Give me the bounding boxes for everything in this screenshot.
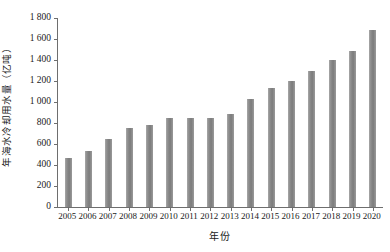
x-axis-tick-label: 2007 [99,212,117,221]
x-axis-tick-label: 2013 [221,212,239,221]
bar [166,118,173,207]
bars-layer [58,18,383,207]
bar [105,139,112,207]
y-axis-tick-mark [54,18,58,19]
y-axis-tick-label: 1 400 [30,55,51,65]
y-axis-tick-mark [54,60,58,61]
y-axis-tick-label: 1 800 [30,13,51,23]
y-axis-tick-mark [54,81,58,82]
x-axis-tick-label: 2012 [200,212,218,221]
bar [369,30,376,207]
y-axis-tick-label: 800 [37,118,51,128]
y-axis-title: 年海水冷却用水量（亿吨） [0,0,16,210]
y-axis-tick-mark [54,144,58,145]
y-axis-title-text: 年海水冷却用水量（亿吨） [3,43,13,167]
x-axis-tick-label: 2017 [302,212,320,221]
y-axis-tick-mark [54,165,58,166]
bar-chart: 年海水冷却用水量（亿吨） 02004006008001 0001 2001 40… [0,0,390,252]
x-axis-tick-label: 2005 [58,212,76,221]
bar [126,128,133,207]
y-axis-tick-mark [54,102,58,103]
bar [329,60,336,207]
y-axis-tick-mark [54,39,58,40]
x-axis-tick-label: 2009 [139,212,157,221]
bar [349,51,356,207]
x-axis-tick-label: 2018 [322,212,340,221]
x-axis-tick-labels: 2005200620072008200920102011201220132014… [57,212,382,226]
bar [187,118,194,207]
x-axis-tick-label: 2019 [343,212,361,221]
x-axis-tick-label: 2008 [119,212,137,221]
x-axis-tick-label: 2016 [282,212,300,221]
bar [146,125,153,207]
y-axis-tick-mark [54,186,58,187]
bar [308,71,315,208]
x-axis-tick-label: 2006 [78,212,96,221]
bar [247,99,254,207]
x-axis-title: 年份 [57,228,382,243]
x-axis-tick-label: 2010 [160,212,178,221]
bar [227,114,234,207]
y-axis-tick-label: 1 600 [30,34,51,44]
plot-area [57,18,383,208]
y-axis-tick-label: 200 [37,181,51,191]
bar [207,118,214,207]
y-axis-tick-mark [54,207,58,208]
x-axis-tick-label: 2015 [261,212,279,221]
bar [65,158,72,207]
y-axis-tick-label: 1 200 [30,76,51,86]
y-axis-tick-label: 1 000 [30,97,51,107]
bar [288,81,295,207]
x-axis-tick-label: 2020 [363,212,381,221]
bar [268,88,275,207]
x-axis-tick-label: 2011 [180,212,198,221]
bar [85,151,92,207]
y-axis-tick-mark [54,123,58,124]
y-axis-tick-label: 400 [37,160,51,170]
y-axis-tick-label: 600 [37,139,51,149]
y-axis-tick-labels: 02004006008001 0001 2001 4001 6001 800 [16,12,54,207]
x-axis-tick-label: 2014 [241,212,259,221]
y-axis-tick-label: 0 [46,202,51,212]
